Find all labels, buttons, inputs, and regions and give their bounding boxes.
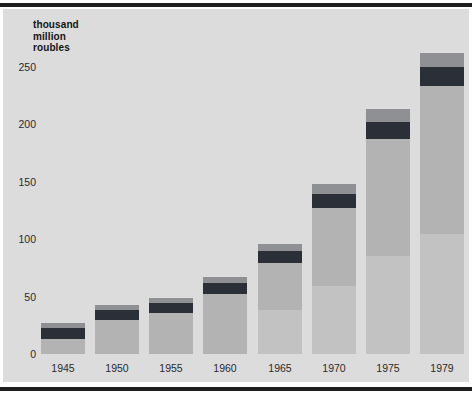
x-tick-label: 1979 [430, 362, 453, 374]
x-tick-label: 1965 [268, 362, 291, 374]
bar-1979 [420, 53, 464, 354]
bar-1975 [366, 109, 410, 354]
bar-lower-section [312, 286, 356, 354]
bar-1945 [41, 323, 85, 354]
bar-dark-band [366, 122, 410, 139]
y-tick-label: 50 [2, 291, 36, 303]
bar-dark-band [203, 283, 247, 294]
bar-cap [41, 323, 85, 328]
x-tick-label: 1945 [51, 362, 74, 374]
y-axis-tick-labels: 050100150200250 [3, 9, 36, 382]
bar-lower-section [420, 234, 464, 354]
x-tick-label: 1950 [105, 362, 128, 374]
bar-cap [258, 244, 302, 251]
bar-dark-band [258, 251, 302, 263]
top-rule [0, 3, 472, 7]
x-tick-label: 1960 [213, 362, 236, 374]
x-tick-label: 1975 [376, 362, 399, 374]
bar-dark-band [95, 310, 139, 320]
bottom-rule [0, 387, 472, 391]
plot-area: 19451950195519601965197019751979 [36, 9, 469, 382]
bar-1955 [149, 298, 193, 354]
y-tick-label: 250 [2, 61, 36, 73]
bar-lower-section [258, 310, 302, 354]
chart-figure: thousand million roubles 050100150200250… [0, 0, 472, 394]
x-tick-label: 1970 [322, 362, 345, 374]
bar-1960 [203, 277, 247, 354]
y-tick-label: 100 [2, 233, 36, 245]
bar-dark-band [312, 194, 356, 208]
x-tick-label: 1955 [159, 362, 182, 374]
bar-lower-section [366, 256, 410, 354]
y-tick-label: 200 [2, 118, 36, 130]
y-tick-label: 150 [2, 176, 36, 188]
bar-cap [366, 109, 410, 122]
bar-1950 [95, 305, 139, 354]
y-tick-label: 0 [2, 348, 36, 360]
bar-dark-band [420, 67, 464, 86]
bar-cap [203, 277, 247, 283]
bar-1970 [312, 184, 356, 354]
bar-cap [149, 298, 193, 303]
bar-cap [420, 53, 464, 67]
plot-panel: thousand million roubles 050100150200250… [3, 9, 469, 382]
bar-1965 [258, 244, 302, 354]
bar-dark-band [149, 303, 193, 313]
bar-dark-band [41, 328, 85, 339]
bar-cap [95, 305, 139, 310]
bar-cap [312, 184, 356, 194]
